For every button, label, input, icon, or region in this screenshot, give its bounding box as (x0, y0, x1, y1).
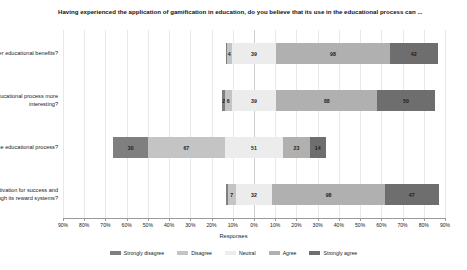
x-tick-mark (403, 218, 404, 221)
x-tick-mark (275, 218, 276, 221)
x-tick-label: 90% (58, 222, 68, 228)
bar-segment-neutral: 32 (236, 184, 273, 205)
chart-title: Having experienced the application of ga… (58, 8, 458, 16)
bar-segment-value: 39 (251, 98, 257, 104)
legend-swatch-icon (269, 251, 280, 255)
category-label-text: ... hinder the educational process? (0, 144, 58, 152)
x-tick-mark (233, 218, 234, 221)
x-tick-mark (127, 218, 128, 221)
chart-container: Having experienced the application of ga… (0, 0, 467, 270)
bar-row: 7329847 (63, 171, 445, 218)
x-tick-mark (296, 218, 297, 221)
x-tick-label: 10% (270, 222, 280, 228)
category-label: ... render the educational process more … (0, 77, 58, 124)
bar-segment-value: 50 (403, 98, 409, 104)
x-tick-label: 90% (440, 222, 450, 228)
x-tick-label: 50% (355, 222, 365, 228)
x-tick-mark (254, 218, 255, 221)
legend-swatch-icon (177, 251, 188, 255)
legend-label: Strongly disagree (124, 250, 164, 256)
x-axis-title: Responses (0, 233, 467, 239)
legend-item[interactable]: Agree (269, 250, 297, 256)
bar-track: 7329847 (63, 184, 445, 205)
bar-segment-value: 67 (183, 145, 189, 151)
x-tick-mark (190, 218, 191, 221)
bar-segment-strongly-agree: 14 (310, 137, 326, 158)
bar-segment-agree: 98 (276, 43, 389, 64)
bar-row: 3067512314 (63, 124, 445, 171)
category-label-text: ... render the educational process more … (0, 93, 58, 108)
bar-segment-neutral: 39 (232, 90, 277, 111)
bar-segment-value: 4 (228, 51, 231, 57)
legend-item[interactable]: Neutral (225, 250, 256, 256)
x-tick-label: 10% (228, 222, 238, 228)
bar-segment-value: 98 (330, 51, 336, 57)
bar-segment-value: 42 (411, 51, 417, 57)
bar-segment-neutral: 39 (232, 43, 277, 64)
bar-segment-value: 39 (251, 51, 257, 57)
chart-legend: Strongly disagreeDisagreeNeutralAgreeStr… (0, 250, 467, 256)
bar-track: 4399842 (63, 43, 445, 64)
bar-segment-strongly-agree: 50 (377, 90, 434, 111)
x-tick-mark (445, 218, 446, 221)
legend-swatch-icon (225, 251, 236, 255)
category-axis: ... offer educational benefits?... rende… (0, 30, 60, 218)
bar-segment-value: 32 (251, 192, 257, 198)
category-label: ... promote learning motivation for succ… (0, 171, 58, 218)
legend-label: Disagree (191, 250, 212, 256)
bar-track: 26398850 (63, 90, 445, 111)
bar-segment-value: 14 (315, 145, 321, 151)
bar-segment-value: 30 (128, 145, 134, 151)
legend-label: Neutral (239, 250, 256, 256)
x-tick-label: 40% (334, 222, 344, 228)
x-tick-label: 80% (419, 222, 429, 228)
bar-segment-agree: 23 (283, 137, 309, 158)
plot-area: 43998422639885030675123147329847 (63, 30, 445, 218)
x-tick-mark (212, 218, 213, 221)
bar-segment-agree: 98 (272, 184, 384, 205)
x-tick-label: 60% (376, 222, 386, 228)
x-tick-mark (339, 218, 340, 221)
bar-segment-value: 23 (294, 145, 300, 151)
bar-segment-value: 7 (230, 192, 233, 198)
category-label: ... offer educational benefits? (0, 30, 58, 77)
legend-label: Strongly agree (323, 250, 357, 256)
x-tick-label: 50% (143, 222, 153, 228)
x-tick-mark (84, 218, 85, 221)
x-tick-label: 80% (79, 222, 89, 228)
x-tick-mark (63, 218, 64, 221)
legend-item[interactable]: Strongly disagree (110, 250, 164, 256)
x-tick-mark (318, 218, 319, 221)
x-tick-label: 30% (185, 222, 195, 228)
x-tick-mark (424, 218, 425, 221)
bar-segment-strongly-agree: 42 (390, 43, 438, 64)
x-tick-label: 20% (291, 222, 301, 228)
bar-segment-disagree: 7 (228, 184, 236, 205)
bar-segment-strongly-agree: 47 (385, 184, 439, 205)
bar-segment-value: 98 (326, 192, 332, 198)
x-tick-label: 20% (206, 222, 216, 228)
gridline (445, 30, 446, 218)
bar-segment-value: 51 (251, 145, 257, 151)
x-tick-mark (169, 218, 170, 221)
x-tick-label: 0% (250, 222, 257, 228)
legend-item[interactable]: Strongly agree (309, 250, 357, 256)
x-tick-label: 40% (164, 222, 174, 228)
bar-row: 4399842 (63, 30, 445, 77)
legend-swatch-icon (110, 251, 121, 255)
x-tick-mark (360, 218, 361, 221)
legend-label: Agree (283, 250, 297, 256)
bar-segment-disagree: 6 (225, 90, 232, 111)
legend-item[interactable]: Disagree (177, 250, 212, 256)
x-tick-label: 30% (313, 222, 323, 228)
bar-segment-neutral: 51 (225, 137, 284, 158)
bar-track: 3067512314 (63, 137, 445, 158)
x-tick-label: 70% (397, 222, 407, 228)
x-tick-mark (381, 218, 382, 221)
bar-segment-value: 6 (227, 98, 230, 104)
x-tick-mark (105, 218, 106, 221)
x-tick-label: 60% (122, 222, 132, 228)
category-label-text: ... offer educational benefits? (0, 50, 58, 58)
legend-swatch-icon (309, 251, 320, 255)
x-tick-mark (148, 218, 149, 221)
